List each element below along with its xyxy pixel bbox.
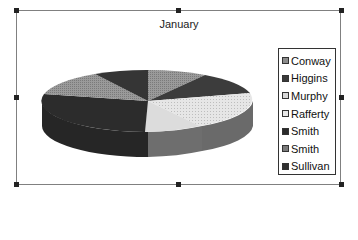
- legend-item-rafferty: Rafferty: [279, 105, 335, 123]
- legend-swatch: [282, 75, 289, 82]
- legend-label: Smith: [291, 125, 319, 137]
- legend-swatch: [282, 57, 289, 64]
- legend-label: Higgins: [291, 72, 328, 84]
- legend-label: Murphy: [291, 90, 328, 102]
- legend-swatch: [282, 92, 289, 99]
- legend-item-sullivan: Sullivan: [279, 158, 335, 176]
- legend-item-conway: Conway: [279, 52, 335, 70]
- chart-legend[interactable]: Conway Higgins Murphy Rafferty Smith Smi…: [278, 48, 336, 175]
- legend-label: Conway: [291, 55, 331, 67]
- legend-swatch: [282, 163, 289, 170]
- legend-swatch: [282, 128, 289, 135]
- legend-item-murphy: Murphy: [279, 87, 335, 105]
- legend-label: Sullivan: [291, 160, 330, 172]
- legend-item-higgins: Higgins: [279, 70, 335, 88]
- legend-item-smith: Smith: [279, 122, 335, 140]
- legend-swatch: [282, 145, 289, 152]
- legend-item-smith-2: Smith: [279, 140, 335, 158]
- legend-swatch: [282, 110, 289, 117]
- legend-label: Rafferty: [291, 108, 329, 120]
- legend-label: Smith: [291, 143, 319, 155]
